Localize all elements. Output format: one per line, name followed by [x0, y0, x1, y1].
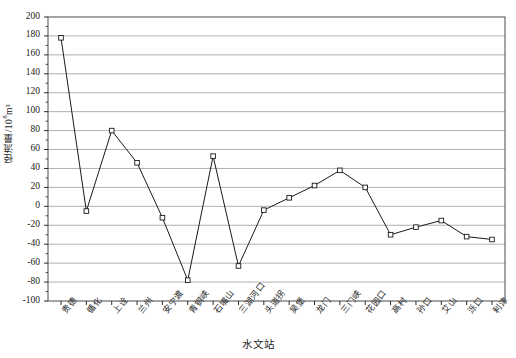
data-point-marker: [109, 128, 114, 133]
data-point-marker: [262, 208, 267, 213]
data-point-marker: [160, 215, 165, 220]
data-point-marker: [414, 225, 419, 230]
x-axis-ticks: [61, 301, 492, 305]
data-point-marker: [439, 218, 444, 223]
data-point-marker: [464, 234, 469, 239]
data-point-marker: [338, 168, 343, 173]
plot-area: [0, 0, 516, 358]
data-point-marker: [312, 183, 317, 188]
data-point-marker: [185, 278, 190, 283]
x-axis-title: 水文站: [0, 336, 516, 351]
data-point-marker: [236, 264, 241, 269]
data-point-marker: [287, 196, 292, 201]
data-point-marker: [388, 232, 393, 237]
data-point-marker: [84, 209, 89, 214]
data-markers: [59, 36, 495, 283]
gridlines: [48, 36, 505, 282]
data-point-marker: [490, 237, 495, 242]
data-point-marker: [211, 154, 216, 159]
runoff-line-chart: 径流量/108m³ 200180160140120100806040200-20…: [0, 0, 516, 358]
y-axis-ticks: [44, 17, 48, 301]
data-point-marker: [363, 185, 368, 190]
plot-frame: [48, 17, 505, 301]
data-point-marker: [59, 36, 64, 41]
data-point-marker: [135, 160, 140, 165]
